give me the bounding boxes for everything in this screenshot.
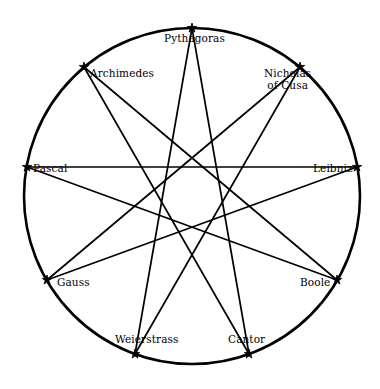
- star-polygon-diagram: PythagorasNicholas of CusaLeibnizBooleCa…: [0, 0, 380, 389]
- chord-archimedes-to-boole: [84, 67, 337, 280]
- vertex-label-pythagoras: Pythagoras: [164, 33, 225, 45]
- vertex-label-weierstrass: Weierstrass: [115, 334, 179, 346]
- chord-boole-to-pascal: [27, 167, 337, 280]
- chord-gauss-to-nicholas-of-cusa: [47, 67, 300, 280]
- chord-leibniz-to-gauss: [47, 167, 357, 280]
- vertex-label-cantor: Cantor: [228, 334, 265, 346]
- vertex-label-archimedes: Archimedes: [90, 68, 154, 80]
- vertex-label-leibniz: Leibniz: [313, 163, 353, 175]
- vertex-marker-weierstrass[interactable]: [130, 349, 140, 358]
- vertex-label-nicholas-of-cusa: Nicholas of Cusa: [264, 68, 311, 91]
- vertex-label-pascal: Pascal: [33, 163, 67, 175]
- vertex-label-gauss: Gauss: [57, 277, 90, 289]
- vertex-marker-cantor[interactable]: [244, 349, 254, 358]
- vertex-label-boole: Boole: [300, 277, 330, 289]
- star-polygon-canvas: [0, 0, 380, 389]
